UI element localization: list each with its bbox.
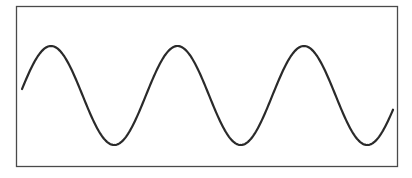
sine-wave-figure: [0, 0, 412, 178]
sine-wave-diagram: [0, 0, 412, 178]
sine-wave-curve: [22, 46, 393, 145]
frame-border: [17, 7, 398, 167]
